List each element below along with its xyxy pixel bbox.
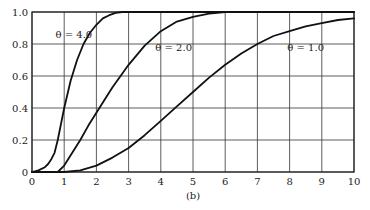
x-tick-label: 3 (125, 176, 131, 187)
y-tick-label: 0.8 (12, 39, 28, 50)
x-tick-label: 2 (93, 176, 99, 187)
y-tick-label: 0.6 (12, 71, 28, 82)
x-tick-label: 10 (348, 176, 361, 187)
y-tick-label: 0.2 (12, 135, 28, 146)
y-axis-tick-labels: 00.20.40.60.81.0 (12, 7, 28, 178)
x-tick-label: 5 (190, 176, 196, 187)
x-tick-label: 4 (158, 176, 164, 187)
y-tick-label: 0.4 (12, 103, 28, 114)
y-tick-label: 0 (22, 167, 28, 178)
x-tick-label: 8 (286, 176, 292, 187)
x-tick-label: 9 (319, 176, 325, 187)
x-axis-tick-labels: 012345678910 (29, 176, 361, 187)
cdf-line-chart: 00.20.40.60.81.0 012345678910 θ = 4.0θ =… (0, 0, 370, 210)
curve-label: θ = 2.0 (155, 42, 192, 53)
curve-label: θ = 4.0 (56, 29, 93, 40)
x-tick-label: 7 (254, 176, 260, 187)
figure-caption: (b) (186, 190, 200, 201)
x-tick-label: 1 (61, 176, 67, 187)
x-tick-label: 6 (222, 176, 228, 187)
x-tick-label: 0 (29, 176, 35, 187)
y-tick-label: 1.0 (12, 7, 28, 18)
curve-label: θ = 1.0 (287, 42, 324, 53)
